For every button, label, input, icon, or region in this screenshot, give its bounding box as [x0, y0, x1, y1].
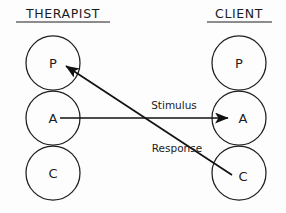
column-heading-therapist: THERAPIST — [25, 6, 100, 21]
ego-label-therapist-child: C — [48, 166, 57, 181]
ego-label-therapist-adult: A — [49, 111, 58, 126]
ego-label-client-adult: A — [239, 111, 248, 126]
response-arrow — [66, 66, 232, 175]
transactional-analysis-diagram: THERAPIST P A C CLIENT P — [0, 0, 286, 213]
ego-label-client-child: C — [238, 169, 247, 184]
column-therapist: THERAPIST P A C — [16, 6, 110, 200]
ego-state-therapist-child: C — [26, 146, 80, 200]
transaction-stimulus: Stimulus — [60, 99, 228, 118]
stimulus-label: Stimulus — [151, 99, 197, 111]
ego-state-client-child: C — [212, 146, 266, 200]
response-label: Response — [152, 142, 202, 154]
ego-state-therapist-parent: P — [26, 36, 80, 90]
ego-label-therapist-parent: P — [49, 56, 57, 71]
ego-label-client-parent: P — [235, 56, 243, 71]
ego-state-client-parent: P — [212, 36, 266, 90]
transaction-response: Response — [66, 66, 232, 175]
diagram-canvas: THERAPIST P A C CLIENT P — [0, 0, 286, 213]
column-client: CLIENT P A C — [207, 6, 272, 200]
column-heading-client: CLIENT — [215, 6, 263, 21]
